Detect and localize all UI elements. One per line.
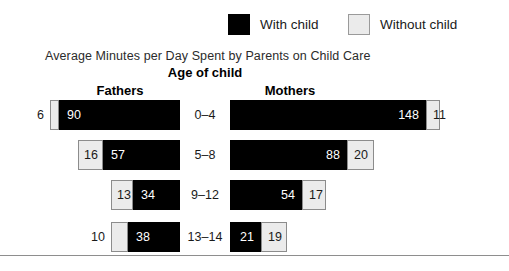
mothers-segment-without-child: 19	[261, 222, 287, 252]
mothers-value-without-child: 17	[309, 189, 323, 202]
chart-row: 69060–414811	[0, 100, 509, 130]
column-header-mothers: Mothers	[230, 83, 350, 98]
mothers-bar-group: 5417	[230, 180, 326, 210]
fathers-segment-without-child: 10	[111, 222, 128, 252]
legend-label-without-child: Without child	[380, 17, 457, 32]
legend-label-with-child: With child	[260, 17, 319, 32]
fathers-value-with-child: 57	[111, 149, 125, 162]
plot-area: 69060–41481116575–8882013349–12541710381…	[0, 98, 509, 256]
fathers-value-without-child-outside: 6	[37, 100, 44, 130]
mothers-value-with-child: 54	[281, 189, 295, 202]
column-header-fathers: Fathers	[60, 83, 180, 98]
mothers-bar-group: 8820	[230, 140, 374, 170]
fathers-segment-without-child: 13	[111, 180, 133, 210]
legend-swatch-without-child	[348, 14, 370, 35]
mothers-value-with-child: 21	[240, 231, 254, 244]
mothers-segment-with-child: 148	[230, 100, 426, 130]
category-label: 9–12	[180, 180, 230, 210]
fathers-segment-without-child: 16	[78, 140, 103, 170]
fathers-bar-group: 1657	[78, 140, 180, 170]
category-label: 13–14	[180, 222, 230, 252]
chart-row: 13349–125417	[0, 180, 509, 210]
fathers-segment-with-child: 90	[59, 100, 180, 130]
fathers-segment-with-child: 38	[128, 222, 180, 252]
fathers-segment-with-child: 57	[103, 140, 180, 170]
legend-item-without-child: Without child	[348, 14, 457, 35]
legend-item-with-child: With child	[228, 14, 319, 35]
fathers-value-with-child: 38	[136, 231, 150, 244]
fathers-bar-group: 690	[50, 100, 180, 130]
mothers-value-without-child: 20	[354, 149, 368, 162]
fathers-value-without-child: 13	[117, 189, 131, 202]
category-label: 0–4	[180, 100, 230, 130]
bottom-divider	[0, 255, 509, 256]
chart-legend: With child Without child	[0, 14, 509, 38]
mothers-value-with-child: 148	[398, 109, 419, 122]
mothers-value-with-child: 88	[326, 149, 340, 162]
mothers-bar-group: 2119	[230, 222, 287, 252]
legend-swatch-with-child	[228, 14, 250, 35]
chart-title: Average Minutes per Day Spent by Parents…	[45, 49, 370, 63]
fathers-value-with-child: 34	[141, 189, 155, 202]
mothers-segment-with-child: 54	[230, 180, 302, 210]
mothers-value-without-child: 11	[433, 109, 446, 122]
fathers-segment-without-child: 6	[50, 100, 59, 130]
mothers-bar-group: 14811	[230, 100, 440, 130]
mothers-segment-without-child: 20	[347, 140, 374, 170]
fathers-value-without-child: 16	[84, 149, 98, 162]
mothers-segment-without-child: 11	[426, 100, 440, 130]
mothers-segment-with-child: 21	[230, 222, 261, 252]
fathers-bar-group: 1038	[111, 222, 180, 252]
fathers-bar-group: 1334	[111, 180, 180, 210]
chart-row: 16575–88820	[0, 140, 509, 170]
chart-canvas: With child Without child Average Minutes…	[0, 0, 509, 271]
fathers-segment-with-child: 34	[133, 180, 180, 210]
mothers-segment-with-child: 88	[230, 140, 347, 170]
chart-row: 10381013–142119	[0, 222, 509, 252]
axis-title-age-of-child: Age of child	[0, 65, 410, 80]
category-label: 5–8	[180, 140, 230, 170]
mothers-value-without-child: 19	[268, 231, 282, 244]
mothers-segment-without-child: 17	[302, 180, 326, 210]
fathers-value-with-child: 90	[67, 109, 81, 122]
fathers-value-without-child-outside: 10	[91, 222, 105, 252]
